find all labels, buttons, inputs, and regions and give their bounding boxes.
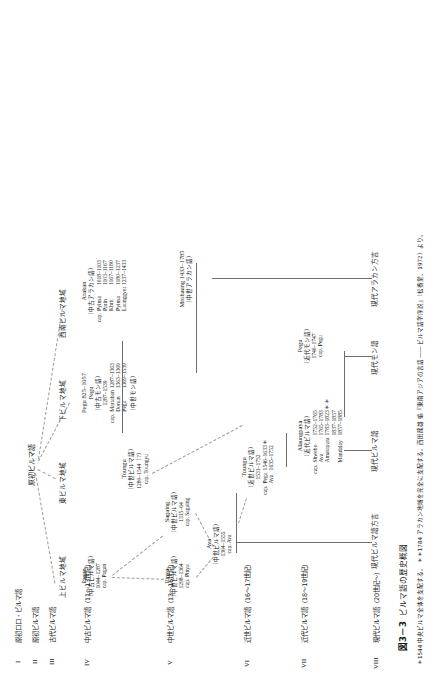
block-arakan: Arakan （中古アラカン語） cap. Pyinsa 1018–1103 P… <box>80 239 128 343</box>
modern-label-burmese: 現代ビルマ語 <box>372 430 379 472</box>
block-toungoo-middle-years: 1280–1544（?） <box>135 431 143 507</box>
block-alaungpaya-cap-years-2: 1783–1823＊＊ <box>324 397 330 436</box>
block-arakan-cap-name-4: Launggyet <box>121 286 127 312</box>
block-pegu-old-capital-table: cap. Martaban 1287–1363 Donun 1363–1369 … <box>109 362 128 424</box>
stage-label-7: 近代ビルマ語（18〜19世紀） <box>300 561 309 643</box>
block-pagan-capital: cap. Pagan <box>101 539 107 613</box>
block-alaungpaya-title: Alaungpaya <box>296 381 303 491</box>
block-arakan-cap-label: cap. <box>96 312 102 323</box>
figure-page: I 原初ロロ・ビルマ語 II 原初ビルマ語 III 古代ビルマ語 IV 中古ビル… <box>0 0 433 673</box>
block-pagan-language: （中古ビルマ語） <box>87 539 95 613</box>
block-pagan: Pagan （中古ビルマ語） 1044–1287 cap. Pagan <box>80 539 107 613</box>
connector-pagan-to-pinya <box>112 577 164 580</box>
stage-roman-2: II <box>31 660 38 664</box>
block-arakan-capital-table: cap. Pyinsa 1018–1103 Parin 1103–1167 Kh… <box>96 259 128 323</box>
stage-label-6: 近世ビルマ語（16〜17世紀） <box>243 561 252 643</box>
stage-roman-4: IV <box>83 659 90 666</box>
block-toungoo-cap-years-0: 1546–1633＊ <box>262 438 268 471</box>
stage-label-8: 現代ビルマ語（20世紀〜） <box>372 569 381 643</box>
block-toungoo-cap-name-1: Ava <box>268 471 274 484</box>
block-mrohaung-title: Mrohaung 1433–1785 <box>178 233 185 325</box>
figure-footnote: ＊1544 中央ビルマ全体を支配する。 ＊＊1784 アラカン地域を完全に支配す… <box>416 5 424 665</box>
stage-label-2: 原初ビルマ語 <box>31 607 40 643</box>
block-alaungpaya-cap-name-4: Mandalay <box>337 436 343 463</box>
block-ava-language: （中世ビルマ語） <box>212 507 220 581</box>
block-alaungpaya-capital-table: cap. Shwebo 1752–1765 Ava 1765–1783 Amar… <box>312 397 344 475</box>
line-burmese-descent <box>344 450 372 451</box>
block-ava-capital: cap. Ava <box>226 507 232 581</box>
block-arakan-title: Arakan <box>80 239 87 343</box>
stage-label-1: 原初ロロ・ビルマ語 <box>14 589 23 643</box>
block-toungoo-middle-language: （中世ビルマ語） <box>127 431 135 507</box>
block-pegu-modern-capital: cap. Pegu <box>317 309 323 383</box>
block-toungoo-cap-label: cap. <box>262 485 268 496</box>
figure-sheet: I 原初ロロ・ビルマ語 II 原初ビルマ語 III 古代ビルマ語 IV 中古ビル… <box>0 0 433 673</box>
block-sagaing-language: （中世ビルマ語） <box>170 475 178 549</box>
line-pegu-old-horizontal <box>122 341 123 433</box>
branch-dashed-to-east-burma <box>38 469 56 479</box>
block-toungoo-early-modern-language: （近世ビルマ語） <box>247 421 255 513</box>
block-arakan-cap-years-2: 1167–1180 <box>108 259 114 286</box>
block-pegu-old-language: （中古モン語） <box>94 345 102 441</box>
stage-roman-7: VII <box>300 659 307 668</box>
modern-label-mon: 現代モン語 <box>372 340 379 375</box>
stage-roman-3: III <box>48 658 55 665</box>
block-sagaing: Sagaing （中世ビルマ語） 1315–64 cap. Sagaing <box>163 475 190 549</box>
table-row: Launggyet 1237–1433 <box>121 259 127 323</box>
block-arakan-language: （中古アラカン語） <box>87 239 95 343</box>
stage-roman-1: I <box>14 661 21 663</box>
block-pinya-language: （中世ビルマ語） <box>170 539 178 613</box>
block-toungoo-cap-name-0: Pegu <box>262 471 268 484</box>
block-pegu-old-cap-name-0: Martaban <box>109 389 115 412</box>
block-pagan-title: Pagan <box>80 539 87 613</box>
block-pinya-capital: cap. Pinya <box>184 539 190 613</box>
block-alaungpaya: Alaungpaya （近代ビルマ語） cap. Shwebo 1752–176… <box>296 381 344 491</box>
block-toungoo-cap-years-1: 1635–1752 <box>268 438 274 471</box>
block-ava: Ava （中世ビルマ語） 1364–1555 cap. Ava <box>205 507 232 581</box>
table-row: Mandalay 1857–1885 <box>337 397 343 475</box>
line-mon-descent <box>344 356 372 357</box>
block-pegu-old-years: 1287–1539 <box>102 345 108 441</box>
block-mrohaung-language: （中世アラカン語） <box>185 233 193 325</box>
block-pegu-old-cap-label: cap. <box>109 413 115 424</box>
block-arakan-cap-years-4: 1237–1433 <box>121 259 127 286</box>
branch-dashed-to-upper-burma <box>35 473 55 583</box>
line-pegu-modern-horizontal <box>344 351 345 417</box>
block-sagaing-capital: cap. Sagaing <box>184 475 190 549</box>
block-pinya: Pinya （中世ビルマ語） 1298–1364 cap. Pinya <box>163 539 190 613</box>
block-pegu-modern-title: Pegu <box>296 309 303 383</box>
connector-toungoo-to-toungoo-modern <box>152 425 243 474</box>
block-arakan-cap-years-0: 1018–1103 <box>96 259 102 286</box>
modern-label-burmese-dialects: 現代ビルマ語方言 <box>372 513 379 569</box>
figure-caption-title: ビルマ語の歴史概図 <box>399 544 408 616</box>
block-toungoo-early-modern-capital-table: cap. Pegu 1546–1633＊ Ava 1635–1752 <box>262 438 275 496</box>
block-pegu-modern-language: （近代モン語） <box>303 309 311 383</box>
block-toungoo-middle: Toungu （中世ビルマ語） 1280–1544（?） cap. Toungy… <box>120 431 149 507</box>
table-row: cap. Martaban 1287–1363 <box>109 362 115 424</box>
region-label-upper-burma: 上ビルマ地域 <box>60 556 67 598</box>
figure-caption: 図3－3 ビルマ語の歴史概図 <box>396 544 408 651</box>
line-ava-horizontal <box>236 493 237 553</box>
block-alaungpaya-cap-label: cap. <box>312 464 318 475</box>
proto-burmese-label: 原初ビルマ語 <box>28 444 36 486</box>
modern-label-arakanese: 現代アラカン方言 <box>372 251 379 307</box>
stage-label-3: 古代ビルマ語 <box>48 607 57 643</box>
block-toungoo-middle-capital: cap. Toungyu <box>143 431 149 507</box>
block-pegu-old-title: Pegu 825–1057 <box>80 345 87 441</box>
stage-roman-6: VI <box>243 660 250 667</box>
line-burmese-dialect-descent <box>236 542 372 543</box>
block-pegu-old-cap-years-0: 1287–1363 <box>109 362 115 389</box>
line-arakanese-descent <box>212 278 372 279</box>
block-alaungpaya-cap-years-4: 1857–1885 <box>337 397 343 436</box>
block-mrohaung: Mrohaung 1433–1785 （中世アラカン語） <box>178 233 193 325</box>
line-toungoo-to-alaungpaya <box>286 433 287 467</box>
table-row: Ava 1635–1752 <box>268 438 274 496</box>
block-pegu-old: Pegu 825–1057 Pegu （中古モン語） 1287–1539 cap… <box>80 345 137 441</box>
block-toungoo-early-modern-years: 1531–1752 <box>255 421 261 513</box>
block-alaungpaya-language: （近代ビルマ語） <box>303 381 311 491</box>
block-sagaing-title: Sagaing <box>163 475 170 549</box>
figure-caption-number: 図3－3 <box>398 621 408 651</box>
block-toungoo-middle-title: Toungu <box>120 431 127 507</box>
stage-roman-5: V <box>166 660 173 665</box>
block-pegu-modern: Pegu （近代モン語） 1740–1747 cap. Pegu <box>296 309 323 383</box>
